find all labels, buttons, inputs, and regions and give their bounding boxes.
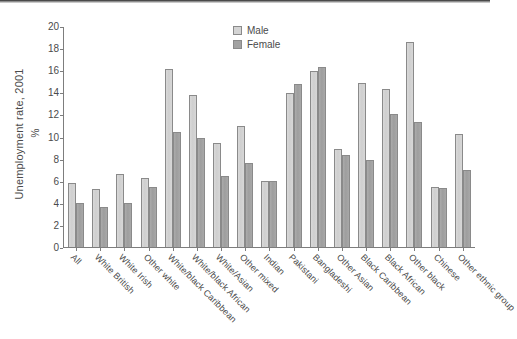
y-axis-tick-label: 16 [33, 66, 59, 76]
y-axis-tick-label: 6 [33, 177, 59, 187]
y-axis-tick-label: 20 [33, 22, 59, 32]
bar-male [382, 89, 390, 247]
y-axis-tick-mark [60, 248, 63, 249]
x-axis-tick-label: Other ethnic group [456, 252, 517, 313]
x-axis-label-cell: Chinese [427, 250, 451, 338]
bar-male [406, 42, 414, 247]
x-axis-tick-mark [221, 248, 222, 251]
bar-male [165, 69, 173, 247]
x-axis-tick-mark [173, 248, 174, 251]
x-axis-label-cell: Other Asian [330, 250, 354, 338]
x-axis-label-cell: White Irish [112, 250, 136, 338]
bar-male [116, 174, 124, 247]
x-axis-label-cell: Black African [378, 250, 402, 338]
bar-groups [64, 27, 475, 247]
bar-group [161, 27, 185, 247]
bar-group [282, 27, 306, 247]
bar-group [257, 27, 281, 247]
bar-group [209, 27, 233, 247]
bar-female [173, 132, 181, 248]
bar-female [366, 160, 374, 247]
bar-male [431, 187, 439, 248]
y-axis-tick-mark [60, 138, 63, 139]
bar-female [221, 176, 229, 248]
x-axis-tick-label: All [69, 252, 83, 266]
bar-male [92, 189, 100, 247]
bar-male [141, 178, 149, 247]
x-axis-tick-mark [390, 248, 391, 251]
bar-female [124, 203, 132, 247]
y-axis-tick-mark [60, 27, 63, 28]
x-axis-label-cell: Pakistani [282, 250, 306, 338]
x-axis-label-cell: White/black African [185, 250, 209, 338]
bar-male [213, 143, 221, 248]
bar-male [261, 181, 269, 247]
bar-male [237, 126, 245, 247]
bar-female [100, 207, 108, 247]
bar-group [378, 27, 402, 247]
y-axis-tick-label: 4 [33, 199, 59, 209]
x-axis-label-cell: All [64, 250, 88, 338]
top-border-rule [0, 0, 490, 3]
y-axis-tick-mark [60, 115, 63, 116]
x-axis-tick-mark [342, 248, 343, 251]
y-axis-tick-label: 10 [33, 133, 59, 143]
y-axis-title-text: Unemployment rate, 2001 [13, 68, 25, 199]
bar-group [451, 27, 475, 247]
x-axis-label-cell: White/Asian [209, 250, 233, 338]
bar-female [414, 122, 422, 247]
bar-male [189, 95, 197, 247]
x-axis-tick-mark [76, 248, 77, 251]
bar-group [427, 27, 451, 247]
bar-male [334, 149, 342, 247]
x-axis-label-cell: Bangladeshi [306, 250, 330, 338]
x-axis-tick-mark [366, 248, 367, 251]
bar-male [286, 93, 294, 247]
y-axis-tick-label: 18 [33, 44, 59, 54]
bar-male [358, 83, 366, 247]
y-axis-tick-mark [60, 226, 63, 227]
y-axis-tick-label: 8 [33, 155, 59, 165]
bar-group [330, 27, 354, 247]
bar-group [306, 27, 330, 247]
x-axis-tick-mark [318, 248, 319, 251]
x-axis-label-cell: Other white [137, 250, 161, 338]
x-axis-label-cell: Other black [402, 250, 426, 338]
x-axis-labels: AllWhite BritishWhite IrishOther whiteWh… [64, 250, 475, 338]
bar-group [112, 27, 136, 247]
bar-female [439, 188, 447, 247]
bar-female [342, 155, 350, 247]
bar-group [88, 27, 112, 247]
bar-female [390, 114, 398, 247]
x-axis-tick-mark [439, 248, 440, 251]
bar-group [137, 27, 161, 247]
y-axis-tick-label: 14 [33, 88, 59, 98]
y-axis-tick-mark [60, 49, 63, 50]
bar-group [402, 27, 426, 247]
x-axis-tick-mark [245, 248, 246, 251]
y-axis-tick-label: 12 [33, 110, 59, 120]
x-axis-tick-mark [149, 248, 150, 251]
x-axis-tick-mark [414, 248, 415, 251]
bar-female [197, 138, 205, 247]
bar-female [245, 163, 253, 247]
x-axis-label-cell: White/black Caribbean [161, 250, 185, 338]
x-axis-tick-mark [124, 248, 125, 251]
bar-group [64, 27, 88, 247]
bar-group [233, 27, 257, 247]
x-axis-tick-mark [463, 248, 464, 251]
y-axis-tick-label: 0 [33, 243, 59, 253]
x-axis-label-cell: Other ethnic group [451, 250, 475, 338]
bar-group [354, 27, 378, 247]
y-axis-tick-mark [60, 182, 63, 183]
bar-female [463, 170, 471, 247]
x-axis-label-cell: Black Caribbean [354, 250, 378, 338]
y-axis-tick-mark [60, 204, 63, 205]
bar-male [68, 183, 76, 247]
x-axis-label-cell: White British [88, 250, 112, 338]
x-axis-label-cell: Other mixed [233, 250, 257, 338]
bar-female [318, 67, 326, 247]
bar-group [185, 27, 209, 247]
x-axis-label-cell: Indian [257, 250, 281, 338]
